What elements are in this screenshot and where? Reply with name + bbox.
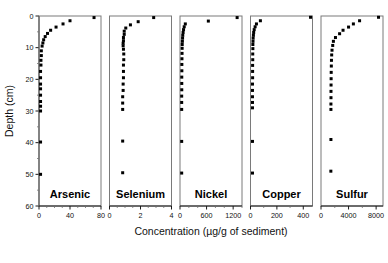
data-point bbox=[55, 26, 58, 29]
data-point bbox=[39, 94, 42, 97]
panel-sulfur: 040008000Sulfur bbox=[319, 16, 384, 220]
data-point bbox=[122, 70, 125, 73]
y-axis-tick-label: 60 bbox=[26, 202, 34, 211]
data-point bbox=[251, 95, 254, 98]
data-point bbox=[93, 16, 96, 19]
data-point bbox=[39, 110, 42, 113]
data-point bbox=[347, 26, 350, 29]
data-point bbox=[330, 71, 333, 74]
data-point bbox=[251, 76, 254, 79]
data-point bbox=[180, 172, 183, 175]
data-point bbox=[251, 106, 254, 109]
x-axis-tick-label: 400 bbox=[297, 211, 309, 220]
panel-label-selenium: Selenium bbox=[116, 188, 165, 200]
data-point bbox=[253, 28, 256, 31]
data-point bbox=[121, 102, 124, 105]
y-axis-tick-label: 30 bbox=[26, 107, 34, 116]
data-point bbox=[338, 32, 341, 35]
data-point bbox=[122, 36, 125, 39]
data-point bbox=[251, 64, 254, 67]
data-point bbox=[123, 30, 126, 33]
y-axis-tick-label: 40 bbox=[26, 138, 34, 147]
data-point bbox=[334, 36, 337, 39]
x-axis-tick-label: 0 bbox=[37, 211, 41, 220]
data-point bbox=[39, 105, 42, 108]
data-point bbox=[183, 25, 186, 28]
x-axis-tick-label: 600 bbox=[201, 211, 213, 220]
data-point bbox=[122, 53, 125, 56]
data-point bbox=[259, 19, 262, 22]
data-point bbox=[122, 76, 125, 79]
data-point bbox=[181, 34, 184, 37]
data-point bbox=[332, 40, 335, 43]
data-point bbox=[122, 89, 125, 92]
x-axis-tick-label: 1200 bbox=[225, 211, 241, 220]
data-point bbox=[180, 63, 183, 66]
data-point bbox=[251, 172, 254, 175]
x-axis-tick-label: 0 bbox=[319, 211, 323, 220]
data-point bbox=[39, 87, 42, 90]
data-point bbox=[44, 35, 47, 38]
data-point bbox=[39, 59, 42, 62]
data-point bbox=[121, 140, 124, 143]
data-point bbox=[180, 108, 183, 111]
data-point bbox=[180, 69, 183, 72]
data-point bbox=[252, 37, 255, 40]
panel-label-sulfur: Sulfur bbox=[336, 188, 368, 200]
data-point bbox=[377, 16, 380, 19]
data-point bbox=[180, 57, 183, 60]
data-point bbox=[330, 84, 333, 87]
data-point bbox=[330, 65, 333, 68]
y-axis-title: Depth (cm) bbox=[3, 85, 15, 137]
panel-label-nickel: Nickel bbox=[195, 188, 227, 200]
data-point bbox=[180, 76, 183, 79]
panel-arsenic: 04080Arsenic bbox=[37, 16, 105, 220]
data-point bbox=[42, 38, 45, 41]
x-axis-tick-label: 8000 bbox=[368, 211, 384, 220]
panel-frame bbox=[321, 16, 383, 206]
data-point bbox=[180, 95, 183, 98]
data-point bbox=[251, 70, 254, 73]
data-point bbox=[121, 95, 124, 98]
data-point bbox=[41, 45, 44, 48]
x-axis-tick-label: 4000 bbox=[341, 211, 357, 220]
data-point bbox=[122, 64, 125, 67]
data-point bbox=[358, 19, 361, 22]
panel-frame bbox=[110, 16, 172, 206]
data-point bbox=[251, 43, 254, 46]
data-point bbox=[255, 22, 258, 25]
data-point bbox=[309, 16, 312, 19]
panel-frame bbox=[251, 16, 313, 206]
data-point bbox=[251, 47, 254, 50]
panel-label-copper: Copper bbox=[262, 188, 301, 200]
data-point bbox=[251, 101, 254, 104]
data-point bbox=[252, 40, 255, 43]
data-point bbox=[251, 89, 254, 92]
y-axis-tick-label: 50 bbox=[26, 170, 34, 179]
data-point bbox=[49, 29, 52, 32]
data-point bbox=[236, 16, 239, 19]
data-point bbox=[121, 108, 124, 111]
y-axis-tick-label: 20 bbox=[26, 75, 34, 84]
x-axis-title: Concentration (µg/g of sediment) bbox=[134, 225, 287, 237]
panel-nickel: 06001200Nickel bbox=[178, 16, 242, 220]
x-axis-tick-label: 200 bbox=[271, 211, 283, 220]
x-axis-tick-label: 40 bbox=[66, 211, 74, 220]
depth-profile-figure: 0102030405060Depth (cm)04080Arsenic024Se… bbox=[0, 0, 388, 263]
data-point bbox=[352, 22, 355, 25]
data-point bbox=[122, 58, 125, 61]
data-point bbox=[39, 64, 42, 67]
data-point bbox=[252, 34, 255, 37]
data-point bbox=[39, 100, 42, 103]
panel-copper: 0200400Copper bbox=[249, 16, 313, 220]
data-point bbox=[122, 83, 125, 86]
data-point bbox=[331, 49, 334, 52]
panel-frame bbox=[180, 16, 242, 206]
data-point bbox=[330, 77, 333, 80]
data-point bbox=[329, 170, 332, 173]
panel-frame bbox=[39, 16, 101, 206]
data-point bbox=[182, 28, 185, 31]
data-point bbox=[39, 141, 42, 144]
data-point bbox=[180, 88, 183, 91]
data-point bbox=[129, 23, 132, 26]
